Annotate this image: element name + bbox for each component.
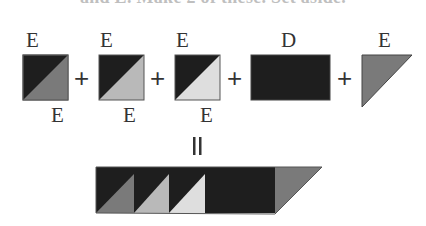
- rect-d-block: [251, 55, 330, 100]
- hst-1-block: [23, 55, 68, 100]
- triangle-e-block: [362, 55, 412, 107]
- equals-sign: [193, 137, 202, 155]
- assembled-strip: [96, 167, 322, 214]
- hst-2-block: [99, 55, 144, 100]
- hst-3-block: [175, 55, 220, 100]
- quilt-diagram: [0, 0, 426, 226]
